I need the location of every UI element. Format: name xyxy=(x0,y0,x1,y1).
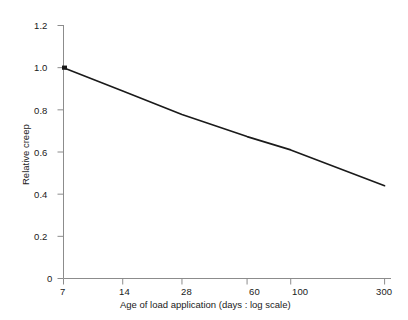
y-tick-label-1-0: 1.0 xyxy=(34,62,48,73)
y-tick-label-0: 0 xyxy=(47,273,52,284)
creep-chart-figure: 0 0.2 0.4 0.6 0.8 1.0 1.2 7 14 28 60 100… xyxy=(0,0,408,320)
y-tick-label-0-2: 0.2 xyxy=(34,231,48,242)
y-axis-ticks xyxy=(58,26,64,279)
x-tick-label-28: 28 xyxy=(181,286,192,297)
y-tick-label-0-4: 0.4 xyxy=(34,189,48,200)
chart-plot-area xyxy=(0,0,408,320)
y-tick-label-0-6: 0.6 xyxy=(34,147,48,158)
x-tick-label-7: 7 xyxy=(60,286,65,297)
relative-creep-line xyxy=(64,68,385,186)
y-tick-label-0-8: 0.8 xyxy=(34,105,48,116)
y-tick-label-1-2: 1.2 xyxy=(34,20,48,31)
data-point-marker-start xyxy=(62,66,67,70)
x-axis-ticks xyxy=(64,279,385,285)
x-tick-label-300: 300 xyxy=(376,286,392,297)
x-axis-title: Age of load application (days : log scal… xyxy=(120,299,291,310)
y-axis-title: Relative creep xyxy=(20,124,31,185)
x-tick-label-14: 14 xyxy=(119,286,130,297)
x-tick-label-100: 100 xyxy=(292,286,308,297)
x-tick-label-60: 60 xyxy=(249,286,260,297)
